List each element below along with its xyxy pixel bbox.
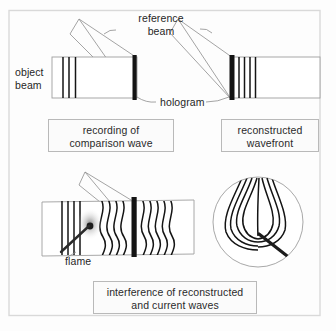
hologram-plate-left (133, 55, 137, 100)
panel-interference (42, 172, 303, 267)
hologram-plate-right (230, 55, 235, 100)
caption-recording-of-comparison-wave: recording ofcomparison wave (48, 119, 174, 152)
caption-reconstructed-wavefront: reconstructedwavefront (221, 119, 319, 152)
label-reference-beam: referencebeam (123, 12, 199, 37)
caption-interference-of-reconstructed-and-current-waves: interference of reconstructedand current… (93, 281, 257, 314)
label-hologram: hologram (160, 96, 205, 109)
figure-frame (9, 11, 320, 316)
label-flame: flame (65, 255, 91, 268)
figure-diagram: referencebeam objectbeam hologram flame … (0, 0, 336, 331)
comparison-beam-box (52, 57, 137, 98)
label-object-beam: objectbeam (15, 66, 59, 91)
hologram-plate-bottom (132, 197, 137, 257)
